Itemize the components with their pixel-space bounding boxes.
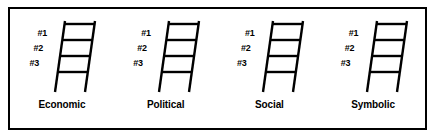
ladder-panel-row: #1 #2 #3 Economic #1 (10, 9, 425, 128)
ladder-panel-political: #1 #2 #3 Political (114, 9, 217, 128)
rung-label-2: #2 (33, 44, 43, 53)
rung-label-1: #1 (141, 29, 151, 38)
rung-label-2: #2 (137, 44, 147, 53)
rung-label-3: #3 (237, 59, 247, 68)
panel-caption-political: Political (114, 100, 217, 110)
rung-label-1: #1 (245, 29, 255, 38)
ladder-icon (10, 9, 113, 99)
ladder-graphic-economic: #1 #2 #3 (10, 9, 113, 99)
rung-label-3: #3 (341, 59, 351, 68)
panel-caption-symbolic: Symbolic (322, 100, 425, 110)
ladder-graphic-symbolic: #1 #2 #3 (322, 9, 425, 99)
ladder-icon (114, 9, 217, 99)
panel-caption-economic: Economic (10, 100, 113, 110)
panel-caption-social: Social (218, 100, 321, 110)
rung-label-2: #2 (241, 44, 251, 53)
ladder-graphic-political: #1 #2 #3 (114, 9, 217, 99)
rung-label-3: #3 (133, 59, 143, 68)
ladder-panel-economic: #1 #2 #3 Economic (10, 9, 113, 128)
ladder-icon (218, 9, 321, 99)
ladder-figure: #1 #2 #3 Economic #1 (0, 0, 435, 138)
ladder-panel-symbolic: #1 #2 #3 Symbolic (322, 9, 425, 128)
ladder-icon (322, 9, 425, 99)
ladder-graphic-social: #1 #2 #3 (218, 9, 321, 99)
rung-label-1: #1 (37, 29, 47, 38)
ladder-panel-social: #1 #2 #3 Social (218, 9, 321, 128)
rung-label-2: #2 (345, 44, 355, 53)
rung-label-3: #3 (29, 59, 39, 68)
rung-label-1: #1 (349, 29, 359, 38)
